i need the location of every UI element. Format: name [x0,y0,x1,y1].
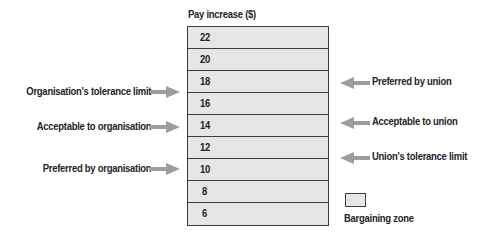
pay-row: 20 [188,49,328,71]
pay-value: 12 [200,141,210,153]
arrow-right-icon [150,86,180,98]
arrow-left-icon [340,117,370,129]
pay-value: 16 [200,97,210,109]
organisation-tolerance-limit-label: Organisation's tolerance limit [26,85,151,97]
pay-value: 8 [202,185,207,197]
acceptable-to-union-label: Acceptable to union [372,115,458,127]
pay-value: 14 [200,119,210,131]
pay-value: 6 [202,207,207,219]
pay-row: 10 [188,159,328,181]
pay-row: 18 [188,71,328,93]
pay-value: 20 [200,53,210,65]
pay-scale-table: 22 20 18 16 14 12 10 8 6 [187,26,329,226]
acceptable-to-organisation-label: Acceptable to organisation [36,120,151,132]
pay-row: 16 [188,93,328,115]
pay-value: 22 [200,31,210,43]
arrow-right-icon [150,163,180,175]
pay-row: 8 [188,181,328,203]
arrow-left-icon [340,152,370,164]
pay-row: 12 [188,137,328,159]
arrow-right-icon [150,121,180,133]
union-tolerance-limit-label: Union's tolerance limit [372,150,467,162]
pay-value: 18 [200,75,210,87]
pay-row: 14 [188,115,328,137]
preferred-by-organisation-label: Preferred by organisation [42,162,151,174]
diagram-title: Pay increase ($) [188,8,256,20]
pay-row: 6 [188,203,328,225]
preferred-by-union-label: Preferred by union [372,75,451,87]
pay-value: 10 [200,163,210,175]
arrow-left-icon [340,77,370,89]
legend-swatch [345,193,366,207]
legend-label: Bargaining zone [344,212,414,224]
pay-row: 22 [188,27,328,49]
